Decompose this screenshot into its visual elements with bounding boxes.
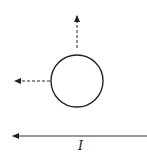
diagram-canvas: I (0, 0, 147, 154)
current-label: I (77, 138, 84, 153)
loop-circle (51, 55, 103, 107)
